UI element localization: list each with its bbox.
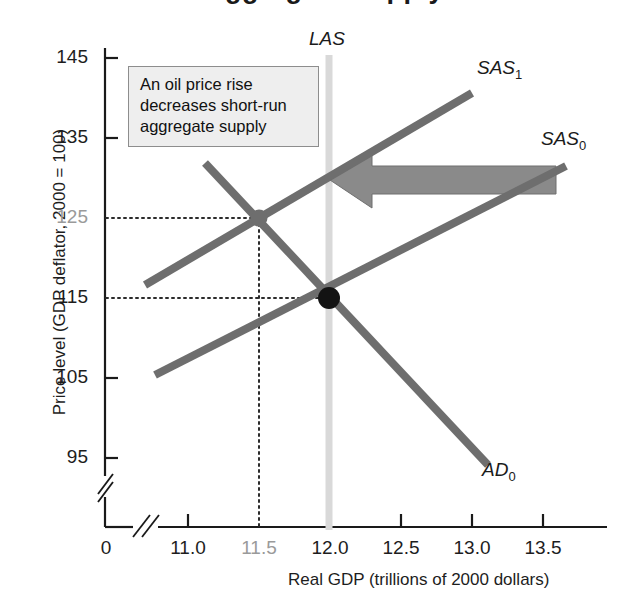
equilibrium-point-new [251,210,268,227]
curve-label-sas1-text: SAS [477,57,515,78]
y-tick-label-125: 125 [40,206,88,228]
x-tick-label-0: 0 [77,537,135,559]
curve-label-ad0-text: AD [482,459,508,480]
y-tick-label-115: 115 [40,286,88,308]
equilibrium-point-initial [318,287,340,309]
x-tick-label-11-0: 11.0 [159,537,217,559]
x-axis-title: Real GDP (trillions of 2000 dollars) [288,570,549,590]
curve-label-sas1: SAS1 [477,57,522,82]
x-tick-label-11-5: 11.5 [230,537,288,559]
curve-label-sas0-sub: 0 [579,138,586,153]
x-tick-label-13-0: 13.0 [443,537,501,559]
x-tick-label-12-0: 12.0 [301,537,359,559]
x-tick-label-12-5: 12.5 [372,537,430,559]
y-tick-label-145: 145 [40,46,88,68]
curve-label-sas1-sub: 1 [515,67,522,82]
annotation-line-2: decreases short-run [140,95,308,116]
curve-label-ad0: AD0 [482,459,516,484]
annotation-line-1: An oil price rise [140,74,308,95]
curve-label-las-text: LAS [309,28,345,49]
curve-label-sas0-text: SAS [541,128,579,149]
annotation-textbox: An oil price rise decreases short-run ag… [128,66,319,147]
annotation-line-3: aggregate supply [140,116,308,137]
y-tick-label-105: 105 [40,366,88,388]
y-tick-label-95: 95 [40,446,88,468]
curve-ad0 [205,163,488,465]
aggregate-supply-figure: Aggregate Supply [0,0,617,612]
curve-label-ad0-sub: 0 [508,469,515,484]
x-tick-label-13-5: 13.5 [514,537,572,559]
curve-label-las: LAS [309,28,345,50]
y-tick-label-135: 135 [40,126,88,148]
curve-label-sas0: SAS0 [541,128,586,153]
